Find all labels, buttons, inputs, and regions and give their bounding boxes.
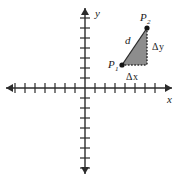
x-axis-arrow-left (6, 84, 13, 92)
delta-x-variable: x (133, 71, 138, 82)
point-p1-marker (119, 62, 124, 67)
right-triangle (119, 25, 149, 67)
y-axis-arrow-down (81, 167, 89, 174)
y-axis (80, 8, 90, 174)
y-axis-arrow-up (81, 8, 89, 15)
delta-y-label: Δ y (152, 41, 164, 52)
point-p2-label-subscript: 2 (147, 18, 151, 26)
point-p1-label-base: P (107, 58, 115, 70)
x-axis (6, 83, 172, 93)
point-p1-label: P 1 (107, 58, 119, 73)
coordinate-plane-svg: x y P 1 P 2 d Δ y Δ x (0, 0, 178, 181)
delta-y-variable: y (159, 41, 164, 52)
x-axis-arrow-right (165, 84, 172, 92)
point-p1-label-subscript: 1 (115, 65, 119, 73)
delta-x-label: Δ x (126, 71, 138, 82)
distance-formula-figure: x y P 1 P 2 d Δ y Δ x (0, 0, 178, 181)
point-p2-label: P 2 (139, 11, 151, 26)
delta-y-symbol: Δ (152, 41, 159, 52)
y-axis-label: y (94, 7, 100, 19)
point-p2-marker (144, 25, 149, 30)
x-axis-label: x (166, 93, 172, 105)
delta-x-symbol: Δ (126, 71, 133, 82)
distance-label: d (125, 34, 131, 46)
point-p2-label-base: P (139, 11, 147, 23)
